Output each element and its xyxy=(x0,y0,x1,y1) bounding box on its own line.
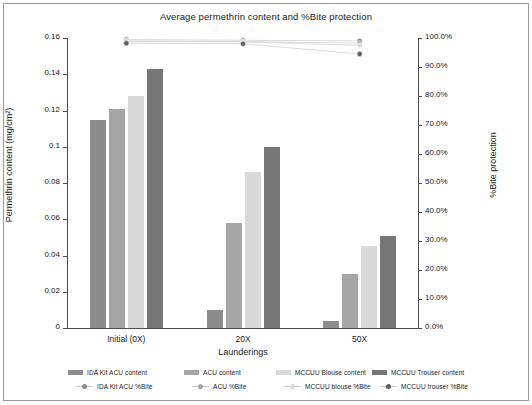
tick-mark xyxy=(63,292,67,293)
y-tick-label-right: 30.0% xyxy=(425,235,448,244)
y-tick-label-left: 0.1 xyxy=(49,141,60,150)
legend-item-content[interactable]: ACU content xyxy=(184,366,241,378)
tick-mark xyxy=(63,183,67,184)
bar xyxy=(245,172,261,328)
legend-item-content[interactable]: IDA Kit ACU content xyxy=(68,366,147,378)
bar xyxy=(147,69,163,328)
tick-mark xyxy=(63,111,67,112)
x-axis-line xyxy=(67,328,419,329)
tick-mark xyxy=(63,74,67,75)
y-tick-label-right: 50.0% xyxy=(425,177,448,186)
legend-swatch-icon xyxy=(184,370,199,375)
x-tick-label: 50X xyxy=(310,334,410,344)
y-tick-right: 40.0% xyxy=(418,212,478,213)
y-tick-label-left: 0.12 xyxy=(44,105,60,114)
y-tick-right: 90.0% xyxy=(418,67,478,68)
tick-mark xyxy=(418,67,422,68)
legend-row-bite: IDA Kit ACU %BiteACU %BiteMCCUU blouse %… xyxy=(68,380,468,392)
y-tick-label-right: 60.0% xyxy=(425,148,448,157)
legend-label: MCCUU blouse %Bite xyxy=(305,383,371,390)
y-tick-label-left: 0.14 xyxy=(44,68,60,77)
legend-swatch-icon xyxy=(68,370,83,375)
tick-mark xyxy=(63,219,67,220)
y-tick-right: 0.0% xyxy=(418,328,478,329)
tick-mark xyxy=(418,96,422,97)
y-tick-label-left: 0 xyxy=(56,322,60,331)
legend-marker-icon xyxy=(76,382,93,391)
chart-figure: Average permethrin content and %Bite pro… xyxy=(0,0,532,405)
tick-mark xyxy=(418,38,422,39)
bar xyxy=(226,223,242,328)
legend-swatch-icon xyxy=(372,370,387,375)
tick-mark xyxy=(63,147,67,148)
y-axis-left-title: Permethrin content (mg/cm²) xyxy=(4,35,14,295)
bar xyxy=(323,321,339,328)
y-tick-label-right: 90.0% xyxy=(425,61,448,70)
legend-marker-icon xyxy=(192,382,209,391)
tick-mark xyxy=(63,328,67,329)
bar xyxy=(128,96,144,328)
tick-mark xyxy=(63,256,67,257)
bar xyxy=(90,120,106,328)
y-tick-label-left: 0.16 xyxy=(44,32,60,41)
y-tick-label-right: 70.0% xyxy=(425,119,448,128)
y-tick-label-right: 10.0% xyxy=(425,293,448,302)
tick-mark xyxy=(418,241,422,242)
legend-label: MCCUU Trouser content xyxy=(391,369,464,376)
y-tick-label-right: 80.0% xyxy=(425,90,448,99)
bar xyxy=(361,246,377,328)
bar xyxy=(264,147,280,328)
y-tick-label-right: 40.0% xyxy=(425,206,448,215)
chart-title: Average permethrin content and %Bite pro… xyxy=(0,11,532,22)
y-tick-right: 70.0% xyxy=(418,125,478,126)
x-axis-title: Launderings xyxy=(68,347,418,357)
bar xyxy=(342,274,358,328)
bar xyxy=(207,310,223,328)
legend-label: IDA Kit ACU %Bite xyxy=(97,383,153,390)
legend-swatch-icon xyxy=(276,370,291,375)
y-tick-right: 30.0% xyxy=(418,241,478,242)
y-tick-right: 60.0% xyxy=(418,154,478,155)
legend-item-bite[interactable]: ACU %Bite xyxy=(192,380,246,392)
x-tick-label: 20X xyxy=(193,334,293,344)
y-tick-label-right: 100.0% xyxy=(425,32,452,41)
y-tick-left: 0 xyxy=(0,328,67,329)
y-tick-label-left: 0.08 xyxy=(44,177,60,186)
tick-mark xyxy=(418,154,422,155)
tick-mark xyxy=(63,38,67,39)
y-tick-label-left: 0.04 xyxy=(44,250,60,259)
tick-mark xyxy=(418,125,422,126)
legend-item-bite[interactable]: MCCUU trouser %Bite xyxy=(380,380,468,392)
legend-label: MCCUU trouser %Bite xyxy=(401,383,468,390)
y-axis-right-title: %Bite protection xyxy=(488,35,498,295)
y-tick-label-right: 20.0% xyxy=(425,264,448,273)
legend-item-content[interactable]: MCCUU Trouser content xyxy=(372,366,464,378)
tick-mark xyxy=(418,270,422,271)
legend-item-bite[interactable]: IDA Kit ACU %Bite xyxy=(76,380,153,392)
y-tick-right: 50.0% xyxy=(418,183,478,184)
y-tick-right: 80.0% xyxy=(418,96,478,97)
legend-item-content[interactable]: MCCUU Blouse content xyxy=(276,366,366,378)
bar xyxy=(380,236,396,328)
legend-item-bite[interactable]: MCCUU blouse %Bite xyxy=(284,380,371,392)
y-tick-right: 100.0% xyxy=(418,38,478,39)
legend-label: IDA Kit ACU content xyxy=(87,369,147,376)
plot-area xyxy=(68,38,418,328)
x-tick-label: Initial (0X) xyxy=(76,334,176,344)
y-tick-label-right: 0.0% xyxy=(425,322,443,331)
y-tick-label-left: 0.06 xyxy=(44,213,60,222)
tick-mark xyxy=(418,212,422,213)
y-tick-right: 20.0% xyxy=(418,270,478,271)
legend-marker-icon xyxy=(284,382,301,391)
tick-mark xyxy=(418,183,422,184)
tick-mark xyxy=(418,328,422,329)
legend-label: ACU %Bite xyxy=(213,383,246,390)
legend-label: ACU content xyxy=(203,369,241,376)
legend-row-content: IDA Kit ACU contentACU contentMCCUU Blou… xyxy=(68,366,468,378)
legend-label: MCCUU Blouse content xyxy=(295,369,366,376)
tick-mark xyxy=(418,299,422,300)
chart-legend: IDA Kit ACU contentACU contentMCCUU Blou… xyxy=(68,366,468,394)
y-tick-label-left: 0.02 xyxy=(44,286,60,295)
legend-marker-icon xyxy=(380,382,397,391)
bar xyxy=(109,109,125,328)
